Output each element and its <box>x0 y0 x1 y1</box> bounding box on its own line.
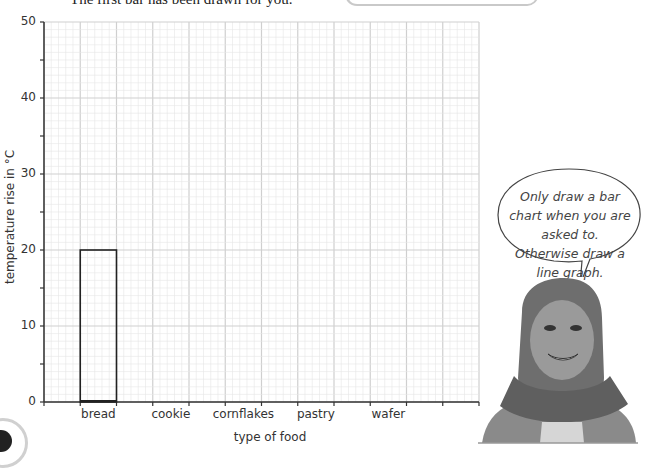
y-tick-label: 10 <box>0 318 36 332</box>
speech-bubble-text: Only draw a bar chart when you are asked… <box>508 187 632 282</box>
x-tick-label: wafer <box>348 407 428 421</box>
y-tick-label: 40 <box>0 90 36 104</box>
x-tick-label: bread <box>58 407 138 421</box>
y-tick-label: 50 <box>0 14 36 28</box>
chart-grid <box>44 22 479 402</box>
chart-axes <box>40 22 479 406</box>
student-illustration-icon <box>478 278 638 445</box>
x-tick-label: cornflakes <box>203 407 283 421</box>
x-axis-label: type of food <box>200 430 340 444</box>
x-tick-label: cookie <box>131 407 211 421</box>
y-axis-label: temperature rise in °C <box>3 147 17 287</box>
y-tick-label: 0 <box>0 394 36 408</box>
x-tick-label: pastry <box>276 407 356 421</box>
